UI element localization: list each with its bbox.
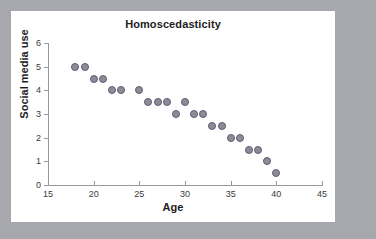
y-tick-label: 4 [29,85,41,95]
data-point [254,146,262,154]
x-axis-title: Age [11,201,335,213]
y-tick-mark [44,185,48,186]
y-tick-label: 3 [29,109,41,119]
data-point [227,134,235,142]
chart-title: Homoscedasticity [11,18,335,30]
data-point [163,98,171,106]
data-point [208,122,216,130]
data-point [181,98,189,106]
data-point [71,63,79,71]
x-tick-label: 30 [180,189,190,199]
x-tick-label: 35 [226,189,236,199]
y-tick-label: 1 [29,156,41,166]
y-tick-label: 6 [29,38,41,48]
data-point [172,110,180,118]
data-point [144,98,152,106]
x-tick-mark [322,181,323,185]
data-point [154,98,162,106]
data-point [218,122,226,130]
data-point [117,86,125,94]
data-point [263,157,271,165]
y-tick-label: 0 [29,180,41,190]
data-point [108,86,116,94]
x-tick-label: 15 [43,189,53,199]
scatter-plot-area [48,43,322,185]
data-point [99,75,107,83]
x-tick-label: 25 [134,189,144,199]
data-point [272,169,280,177]
y-axis-title: Social media use [18,11,30,139]
y-tick-label: 2 [29,133,41,143]
y-tick-label: 5 [29,62,41,72]
data-point [236,134,244,142]
chart-panel: Homoscedasticity 15202530354045 0123456 … [11,11,335,222]
data-point [135,86,143,94]
data-point [90,75,98,83]
x-tick-label: 40 [271,189,281,199]
x-axis-line [48,185,323,186]
data-point [190,110,198,118]
data-point [245,146,253,154]
data-point [199,110,207,118]
data-point [81,63,89,71]
x-tick-label: 45 [317,189,327,199]
x-tick-label: 20 [89,189,99,199]
